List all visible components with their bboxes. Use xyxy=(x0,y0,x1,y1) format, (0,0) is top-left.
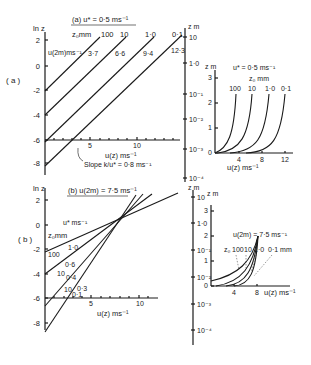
svg-text:u(z) ms⁻¹: u(z) ms⁻¹ xyxy=(264,288,296,297)
svg-text:6·6: 6·6 xyxy=(115,50,125,57)
svg-text:10: 10 xyxy=(244,246,252,253)
svg-text:-2: -2 xyxy=(33,245,40,254)
panel-a-right-axis-label: z m xyxy=(188,23,199,30)
svg-text:0: 0 xyxy=(36,62,40,71)
svg-text:10⁻⁴: 10⁻⁴ xyxy=(197,327,212,334)
svg-text:2: 2 xyxy=(36,36,40,45)
inset-a-curve-100 xyxy=(215,94,236,153)
svg-text:10: 10 xyxy=(136,300,144,307)
svg-text:12: 12 xyxy=(281,156,289,163)
panel-b-x-axis-label: u(z) ms⁻¹ xyxy=(97,309,129,318)
panel-b-line-labels: 1·0 100 0·6 10 0·4 10 0·3 0·1 xyxy=(48,244,87,298)
svg-text:5: 5 xyxy=(89,300,93,307)
svg-text:10⁻⁴: 10⁻⁴ xyxy=(189,175,204,182)
svg-text:10: 10 xyxy=(133,142,141,149)
svg-text:0: 0 xyxy=(208,149,212,156)
svg-text:0·1: 0·1 xyxy=(281,85,291,92)
svg-text:0·1: 0·1 xyxy=(172,30,183,39)
svg-text:0·1 mm: 0·1 mm xyxy=(268,246,292,253)
inset-a-title: u* = 0·5 ms⁻¹ xyxy=(233,64,276,71)
svg-text:1·0: 1·0 xyxy=(145,30,156,39)
slope-pointer xyxy=(78,148,83,161)
svg-text:z₀mm: z₀mm xyxy=(48,231,67,240)
svg-text:10: 10 xyxy=(248,85,256,92)
svg-text:1·0: 1·0 xyxy=(189,60,199,67)
svg-text:0·6: 0·6 xyxy=(65,261,75,268)
panel-a-u2-labels: 3·7 6·6 9·4 12·3 xyxy=(88,47,185,57)
svg-text:10: 10 xyxy=(197,194,205,201)
panel-a-title: (a) u* = 0·5 ms⁻¹ xyxy=(72,15,129,24)
figure-canvas: ( a ) ln z 2 0 -2 -4 -6 -8 5 10 u(z) ms⁻… xyxy=(0,0,311,365)
svg-text:-8: -8 xyxy=(33,319,40,328)
svg-text:12·3: 12·3 xyxy=(171,47,185,54)
svg-text:100: 100 xyxy=(48,251,60,258)
svg-text:10: 10 xyxy=(189,34,197,41)
panel-a-left-ticks: 2 0 -2 -4 -6 -8 xyxy=(33,36,48,168)
svg-text:0·4: 0·4 xyxy=(66,274,76,281)
svg-text:z m: z m xyxy=(188,184,199,191)
svg-text:-4: -4 xyxy=(33,111,40,120)
panel-a-u2-header: u(2m)ms⁻¹ xyxy=(48,49,83,57)
profile-line-z0-100 xyxy=(45,37,100,91)
svg-text:8: 8 xyxy=(255,289,259,296)
panel-a-z0-header: z₀mm xyxy=(72,30,91,39)
slope-label: Slope k/u* = 0·8 ms⁻¹ xyxy=(84,161,152,169)
svg-text:0·1: 0·1 xyxy=(72,291,82,298)
svg-text:100: 100 xyxy=(101,30,114,39)
svg-text:-6: -6 xyxy=(33,136,40,145)
svg-text:100: 100 xyxy=(229,85,241,92)
svg-text:10⁻²: 10⁻² xyxy=(197,274,212,281)
inset-b-curve-1 xyxy=(226,236,258,286)
svg-text:1: 1 xyxy=(204,257,208,264)
svg-text:z₀ mm: z₀ mm xyxy=(249,75,269,82)
svg-text:2: 2 xyxy=(204,232,208,239)
svg-text:10⁻¹: 10⁻¹ xyxy=(189,91,204,98)
panel-b-label: ( b ) xyxy=(18,235,33,244)
svg-text:1·0: 1·0 xyxy=(197,220,207,227)
svg-text:10: 10 xyxy=(57,270,65,277)
svg-text:1·0: 1·0 xyxy=(265,85,275,92)
panel-a-left-axis-label: ln z xyxy=(33,24,45,33)
panel-a-label: ( a ) xyxy=(6,76,21,85)
svg-text:10⁻³: 10⁻³ xyxy=(197,301,212,308)
profile-line-ustar-0.4 xyxy=(45,194,143,306)
svg-text:2: 2 xyxy=(208,99,212,106)
svg-text:3·7: 3·7 xyxy=(88,50,98,57)
svg-text:8: 8 xyxy=(260,156,264,163)
inset-a: z m 0 1 2 3 4 8 12 u(z) ms⁻¹ u* = 0·5 ms… xyxy=(205,63,293,172)
inset-b-title: u(2m) = 7·5 ms⁻¹ xyxy=(233,231,288,239)
panel-a-z0-labels: 100 10 1·0 0·1 xyxy=(101,30,183,39)
svg-text:3: 3 xyxy=(208,74,212,81)
svg-text:u(z) ms⁻¹: u(z) ms⁻¹ xyxy=(227,163,259,172)
svg-text:0: 0 xyxy=(36,221,40,230)
svg-text:z₀: z₀ xyxy=(224,246,231,253)
panel-b: ( b ) ln z 2 0 -2 -4 -6 -8 5 10 u(z) ms⁻… xyxy=(18,184,212,345)
inset-b: z m z m 0 1 2 3 4 8 u(z) ms⁻¹ u(2m) = 7·… xyxy=(203,190,296,300)
panel-a-x-axis-label: u(z) ms⁻¹ xyxy=(105,151,137,160)
svg-text:z m: z m xyxy=(205,63,216,70)
svg-text:-8: -8 xyxy=(33,159,40,168)
svg-text:9·4: 9·4 xyxy=(143,50,153,57)
svg-text:10: 10 xyxy=(64,286,72,293)
panel-b-left-axis-label: ln z xyxy=(33,184,45,193)
svg-text:2: 2 xyxy=(36,196,40,205)
svg-text:10: 10 xyxy=(120,30,128,39)
panel-b-right-ticks: 10 1·0 10⁻¹ 10⁻² 10⁻³ 10⁻⁴ xyxy=(191,194,212,334)
svg-text:1: 1 xyxy=(208,124,212,131)
svg-text:1·0: 1·0 xyxy=(68,244,78,251)
svg-text:10⁻²: 10⁻² xyxy=(189,116,204,123)
panel-a-right-ticks: 10 1·0 10⁻¹ 10⁻² 10⁻³ 10⁻⁴ xyxy=(183,34,204,182)
svg-text:3: 3 xyxy=(204,207,208,214)
svg-text:5: 5 xyxy=(88,142,92,149)
inset-b-y-label: z m xyxy=(207,190,218,197)
svg-text:10⁻³: 10⁻³ xyxy=(189,146,204,153)
svg-text:-4: -4 xyxy=(33,270,40,279)
svg-text:4: 4 xyxy=(237,156,241,163)
svg-text:0: 0 xyxy=(204,282,208,289)
svg-text:-2: -2 xyxy=(33,86,40,95)
panel-b-title: (b) u(2m) = 7·5 ms⁻¹ xyxy=(68,186,137,195)
svg-text:4: 4 xyxy=(232,289,236,296)
svg-text:10⁻¹: 10⁻¹ xyxy=(197,247,212,254)
svg-text:100: 100 xyxy=(232,246,244,253)
svg-text:-6: -6 xyxy=(33,294,40,303)
